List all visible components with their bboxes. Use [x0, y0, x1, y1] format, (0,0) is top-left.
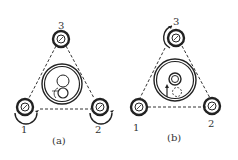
dashed-triangle-a	[29, 46, 94, 109]
roller-2-a	[90, 99, 114, 124]
central-workpiece-b	[154, 59, 196, 101]
roller-label-3-a: 3	[58, 20, 64, 31]
roller-label-1-a: 1	[21, 124, 27, 135]
roller-diagram-figure: 3 1 2 (a)	[0, 0, 238, 160]
roller-2-b	[204, 98, 220, 114]
panel-a: 3 1 2 (a)	[15, 20, 114, 146]
roller-label-1-b: 1	[133, 122, 139, 133]
roller-1-a	[15, 99, 39, 124]
panel-caption-b: (b)	[167, 132, 181, 143]
central-workpiece-a	[42, 64, 82, 104]
roller-label-2-b: 2	[208, 118, 214, 129]
roller-3-b	[164, 26, 184, 48]
roller-label-2-a: 2	[95, 124, 101, 135]
dashed-triangle-b	[140, 46, 210, 107]
roller-1-b	[131, 99, 147, 115]
roller-3-a	[53, 31, 69, 47]
panel-b: 3 1 2 (b)	[131, 16, 220, 143]
panel-caption-a: (a)	[52, 135, 66, 146]
roller-label-3-b: 3	[173, 16, 179, 27]
